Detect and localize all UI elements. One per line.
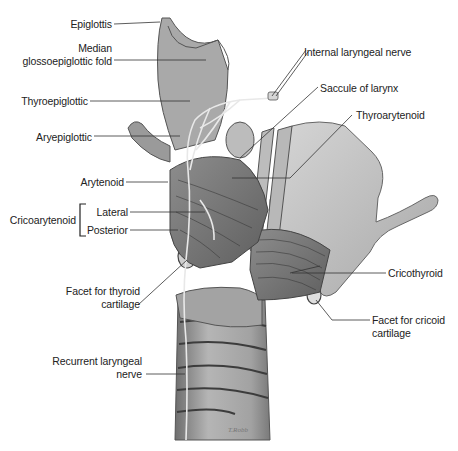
larynx-diagram: T.Robb Epiglottis Median glossoepiglotti… — [0, 0, 458, 451]
label-facet-cricoid-2: cartilage — [372, 327, 411, 339]
label-arytenoid: Arytenoid — [0, 176, 124, 188]
internal-laryngeal-nerve-stub — [268, 92, 278, 100]
label-facet-thyroid-1: Facet for thyroid — [20, 285, 140, 297]
label-cricothyroid: Cricothyroid — [388, 267, 443, 279]
label-posterior: Posterior — [80, 224, 128, 236]
label-recurrent-laryngeal-1: Recurrent laryngeal — [20, 355, 142, 367]
label-saccule: Saccule of larynx — [320, 82, 398, 94]
label-facet-thyroid-2: cartilage — [20, 298, 140, 310]
artist-signature: T.Robb — [228, 426, 248, 434]
label-thyroarytenoid: Thyroarytenoid — [356, 109, 425, 121]
label-recurrent-laryngeal-2: nerve — [20, 368, 142, 380]
epiglottis — [158, 18, 229, 150]
label-epiglottis: Epiglottis — [40, 18, 112, 30]
label-median-fold-1: Median — [0, 42, 112, 54]
label-aryepiglottic: Aryepiglottic — [0, 131, 92, 143]
label-thyroepiglottic: Thyroepiglottic — [0, 95, 88, 107]
label-internal-laryngeal-nerve: Internal laryngeal nerve — [304, 46, 411, 58]
aryepiglottic-fold — [128, 122, 170, 162]
label-median-fold-2: glossoepiglottic fold — [0, 55, 112, 67]
label-lateral: Lateral — [80, 206, 128, 218]
label-facet-cricoid-1: Facet for cricoid — [372, 314, 445, 326]
label-cricoarytenoid: Cricoarytenoid — [0, 214, 76, 226]
saccule — [226, 122, 254, 158]
